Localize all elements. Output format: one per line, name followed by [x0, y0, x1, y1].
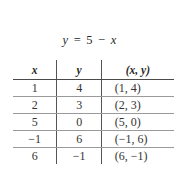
cell-ordered-pair: (2, 3)	[101, 97, 174, 114]
minus-sign: −	[96, 33, 107, 47]
cell-ordered-pair: (6, −1)	[101, 148, 174, 165]
header-row: x y (x, y)	[13, 60, 174, 80]
equals-sign: =	[72, 33, 83, 47]
cell-y: 6	[57, 131, 101, 148]
cell-y: −1	[57, 148, 101, 165]
cell-y: 0	[57, 114, 101, 131]
equation-title: y = 5 − x	[0, 33, 179, 48]
equation-variable: x	[111, 33, 117, 47]
cell-ordered-pair: (1, 4)	[101, 80, 174, 97]
cell-ordered-pair: (−1, 6)	[101, 131, 174, 148]
header-y: y	[57, 60, 101, 80]
cell-x: −1	[13, 131, 57, 148]
table-row: 6 −1 (6, −1)	[13, 148, 174, 165]
cell-ordered-pair: (5, 0)	[101, 114, 174, 131]
header-x: x	[13, 60, 57, 80]
cell-x: 1	[13, 80, 57, 97]
header-ordered-pair: (x, y)	[101, 60, 174, 80]
cell-x: 6	[13, 148, 57, 165]
cell-y: 4	[57, 80, 101, 97]
table-row: 2 3 (2, 3)	[13, 97, 174, 114]
table-row: −1 6 (−1, 6)	[13, 131, 174, 148]
cell-x: 5	[13, 114, 57, 131]
equation-lhs: y	[63, 33, 69, 47]
equation-constant: 5	[86, 33, 92, 47]
cell-x: 2	[13, 97, 57, 114]
table-row: 1 4 (1, 4)	[13, 80, 174, 97]
table-row: 5 0 (5, 0)	[13, 114, 174, 131]
cell-y: 3	[57, 97, 101, 114]
values-table: x y (x, y) 1 4 (1, 4) 2 3 (2, 3) 5 0 (5,…	[13, 60, 174, 164]
